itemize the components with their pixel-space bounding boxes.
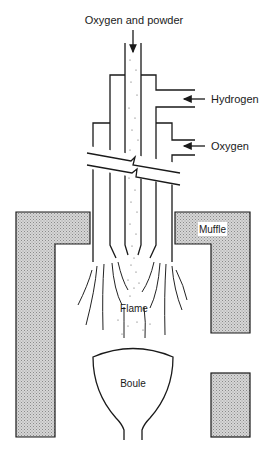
boule — [93, 349, 173, 441]
powder-tube — [125, 43, 141, 259]
muffle-left — [16, 212, 90, 437]
oxygen-label: Oxygen — [211, 140, 249, 152]
muffle-label: Muffle — [199, 224, 226, 235]
muffle-right-lower — [211, 373, 250, 437]
feed-label: Oxygen and powder — [85, 14, 184, 26]
boule-label: Boule — [120, 378, 146, 389]
flame — [78, 262, 187, 338]
flame-label: Flame — [120, 303, 148, 314]
break-lines — [85, 146, 183, 186]
verneuil-diagram: Oxygen and powder Hy — [0, 0, 267, 458]
hydrogen-label: Hydrogen — [211, 93, 259, 105]
